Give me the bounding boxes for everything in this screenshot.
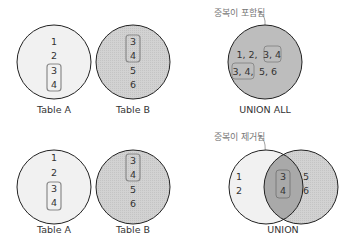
bottom-table-b: 3 4 5 6 Table B	[96, 150, 170, 235]
value: 3	[280, 171, 286, 182]
value: 6	[130, 198, 136, 209]
value: 6	[303, 185, 309, 196]
value: 1	[51, 36, 57, 47]
table-a-label: Table A	[36, 224, 72, 235]
row2-plain: 5, 6	[259, 66, 277, 77]
annotation-duplicates-included: 중복이 포함됨	[214, 7, 265, 18]
row1-duplicates: 3, 4	[263, 49, 281, 60]
row2-duplicates: 3, 4,	[232, 66, 253, 77]
value: 4	[51, 79, 57, 90]
bottom-table-a: 1 2 3 4 Table A	[17, 150, 91, 235]
union-diagram: 1 2 3 4 Table A 3 4 5 6 Table B 중복이 포함됨 …	[0, 0, 348, 249]
table-a-label: Table A	[36, 104, 72, 115]
value: 2	[51, 167, 57, 178]
row1-plain: 1, 2,	[236, 49, 257, 60]
annotation-duplicates-removed: 중복이 제거됨	[214, 131, 265, 142]
union-all-label: UNION ALL	[239, 104, 291, 115]
value: 3	[51, 65, 57, 76]
value: 5	[130, 184, 136, 195]
value: 4	[51, 197, 57, 208]
bottom-union: 중복이 제거됨 1 2 3 4 5 6 UNION	[214, 131, 338, 235]
union-label: UNION	[267, 224, 298, 235]
value: 5	[130, 65, 136, 76]
value: 3	[51, 183, 57, 194]
value: 6	[130, 79, 136, 90]
table-b-label: Table B	[115, 104, 150, 115]
value: 4	[280, 185, 286, 196]
value: 2	[51, 50, 57, 61]
value: 1	[51, 152, 57, 163]
value: 1	[236, 171, 242, 182]
value: 4	[130, 50, 136, 61]
value: 3	[130, 155, 136, 166]
value: 5	[303, 171, 309, 182]
value: 4	[130, 169, 136, 180]
table-b-label: Table B	[115, 224, 150, 235]
top-table-a: 1 2 3 4 Table A	[17, 25, 91, 115]
value: 3	[130, 36, 136, 47]
value: 2	[236, 185, 242, 196]
top-table-b: 3 4 5 6 Table B	[96, 25, 170, 115]
top-union-all: 중복이 포함됨 1, 2, 3, 4 3, 4, 5, 6 UNION ALL	[214, 7, 302, 115]
